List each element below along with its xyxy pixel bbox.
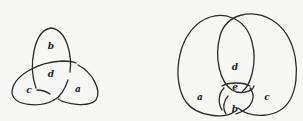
label-link-e: e <box>232 82 238 92</box>
trefoil-top-loop <box>32 28 70 88</box>
link-left-component-lower <box>224 96 228 114</box>
label-link-a: a <box>197 92 203 102</box>
label-link-b: b <box>232 104 238 114</box>
knot-diagrams: b d c a d e a c b <box>0 0 303 121</box>
label-trefoil-a: a <box>75 84 81 94</box>
label-link-c: c <box>264 92 270 102</box>
label-trefoil-b: b <box>48 41 54 51</box>
label-trefoil-d: d <box>48 69 55 79</box>
region-labels: b d c a d e a c b <box>26 41 270 114</box>
label-trefoil-c: c <box>26 85 32 95</box>
trefoil-knot-diagram <box>12 28 98 105</box>
trefoil-top-loop-cont <box>54 80 68 100</box>
link-right-component <box>218 14 297 115</box>
trefoil-left-inner <box>37 90 50 94</box>
link-left-component <box>178 16 254 116</box>
label-link-d: d <box>232 62 239 72</box>
